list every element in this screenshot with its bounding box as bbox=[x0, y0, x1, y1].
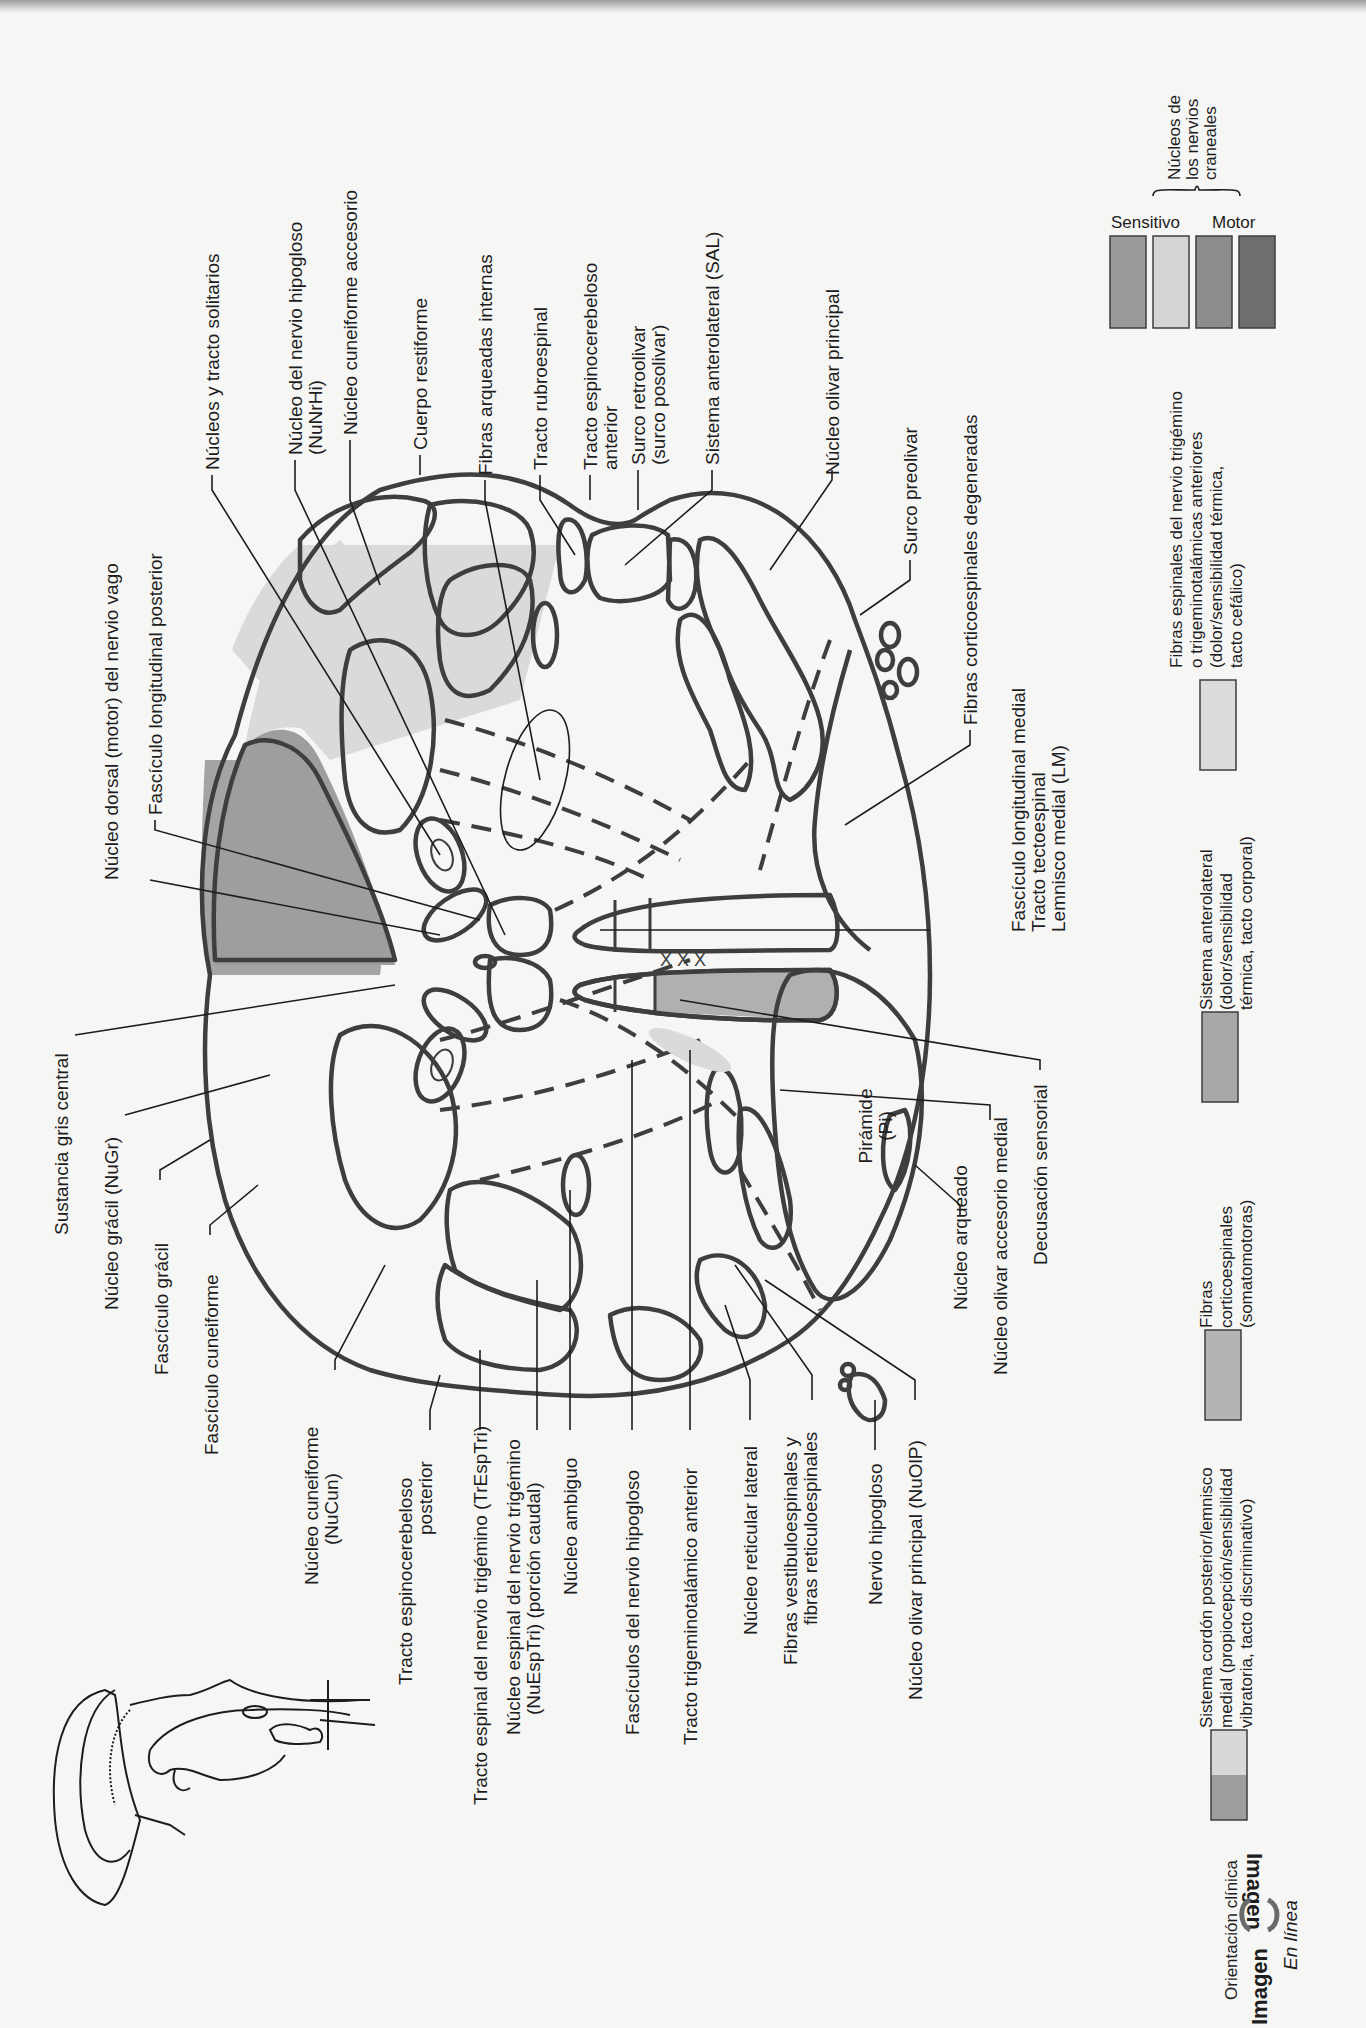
label-nucleo-ambiguo: Núcleo ambiguo bbox=[560, 1458, 581, 1595]
label-fibras-corticoespinales-degeneradas: Fibras corticoespinales degeneradas bbox=[960, 414, 981, 725]
legend-motor: Motor bbox=[1212, 213, 1256, 232]
label-fasciculo-gracil: Fascículo grácil bbox=[151, 1243, 172, 1375]
legend-swatch-anterolateral bbox=[1202, 1012, 1238, 1102]
inferior-olive-upper-inner bbox=[678, 615, 752, 790]
legend-trigemino-line3: (dolor/sensibilidad térmica, bbox=[1207, 466, 1226, 668]
spinal-trigeminal-nucleus-lower bbox=[447, 1182, 581, 1310]
legend-cordon-line1: Sistema cordón posterior/lemnisco bbox=[1197, 1467, 1216, 1728]
branding-imagen-2: Imagen bbox=[1242, 1853, 1267, 1930]
nucleus-ambiguus-lower bbox=[563, 1155, 589, 1215]
legend-swatch-corticoespinales bbox=[1205, 1330, 1241, 1420]
label-fibras-vestibuloespinales: Fibras vestibuloespinales y bbox=[780, 1436, 801, 1665]
decussation-marks: X X X bbox=[660, 950, 706, 970]
legend-corticoespinales-line3: (somatomotoras) bbox=[1237, 1200, 1256, 1328]
label-nervio-hipogloso: Nervio hipogloso bbox=[865, 1463, 886, 1605]
branding-orientacion: Orientación clínica bbox=[1222, 1860, 1241, 2000]
spinal-trigeminal-tract-lower bbox=[438, 1265, 577, 1370]
legend-tracts: Fibras espinales del nervio trigémino o … bbox=[1167, 391, 1256, 1820]
anterior-spinocerebellar bbox=[668, 539, 696, 608]
legend-anterolateral-line1: Sistema anterolateral bbox=[1197, 849, 1216, 1010]
label-sistema-anterolateral: Sistema anterolateral (SAL) bbox=[702, 232, 723, 465]
label-tracto-espinocerebeloso-anterior: Tracto espinocerebeloso bbox=[580, 263, 601, 470]
legend-cordon-line3: vibratoria, tacto discriminativo) bbox=[1237, 1498, 1256, 1728]
label-fasciculo-longitudinal-posterior: Fascículo longitudinal posterior bbox=[145, 552, 166, 815]
label-nucleo-nervio-hipogloso: Núcleo del nervio hipogloso bbox=[285, 222, 306, 455]
label-nucleo-gracil: Núcleo grácil (NuGr) bbox=[101, 1137, 122, 1310]
label-lemnisco-medial: Lemnisco medial (LM) bbox=[1048, 745, 1069, 932]
legend-swatch-motor-dark bbox=[1239, 236, 1275, 328]
hypoglossal-rootlet bbox=[840, 1380, 850, 1390]
legend-cranial-title-1: Núcleos de bbox=[1165, 95, 1184, 180]
legend-swatch-sensory-dark bbox=[1110, 236, 1146, 328]
label-surco-preolivar: Surco preolivar bbox=[900, 427, 921, 555]
pyramid-boundary-upper bbox=[814, 650, 870, 950]
legend-trigemino-line4: tacto cefálico) bbox=[1227, 563, 1246, 668]
labels-bottom: Tracto espinocerebeloso posterior Tracto… bbox=[395, 1426, 926, 1805]
legend-anterolateral-line3: térmica, tacto corporal) bbox=[1237, 836, 1256, 1010]
legend-swatch-sensory-light bbox=[1153, 236, 1189, 328]
legend-sensitivo: Sensitivo bbox=[1111, 213, 1180, 232]
label-tracto-rubroespinal: Tracto rubroespinal bbox=[530, 307, 551, 470]
labels-left: Sustancia gris central Núcleo grácil (Nu… bbox=[51, 1053, 342, 1585]
medial-lemniscus-lower-fill bbox=[655, 970, 837, 1020]
legend-swatch-cordon-light bbox=[1211, 1730, 1247, 1775]
branding-logo: Orientación clínica Imagen Imagen En lín… bbox=[1222, 1853, 1301, 2025]
label-nucleo-espinal-trigemino-2: (NuEspTri) (porción caudal) bbox=[523, 1482, 544, 1715]
inferior-olive-upper bbox=[697, 538, 823, 800]
medulla-cross-section: X X X Pirámide (Pi) bbox=[202, 474, 930, 1420]
legend-cranial-title-3: craneales bbox=[1201, 106, 1220, 180]
label-nucleo-olivar-accesorio-medial: Núcleo olivar accesorio medial bbox=[990, 1117, 1011, 1375]
legend-brace bbox=[1153, 186, 1240, 196]
label-nucleo-cuneiforme-abbr: (NuCun) bbox=[321, 1473, 342, 1545]
label-nucleo-arqueado: Núcleo arqueado bbox=[950, 1165, 971, 1310]
label-fibras-arqueadas-internas: Fibras arqueadas internas bbox=[475, 254, 496, 475]
arcuate-dash-7 bbox=[480, 1100, 720, 1180]
legend-cranial-nuclei: Núcleos de los nervios craneales Sensiti… bbox=[1110, 95, 1275, 328]
label-fasciculos-nervio-hipogloso: Fascículos del nervio hipogloso bbox=[622, 1470, 643, 1735]
label-nucleo-dorsal-vago: Núcleo dorsal (motor) del nervio vago bbox=[101, 563, 122, 880]
arcuate-dash-3 bbox=[440, 820, 650, 880]
hypoglossal-nucleus-upper bbox=[489, 898, 552, 955]
legend-corticoespinales-line2: corticoespinales bbox=[1217, 1206, 1236, 1328]
label-tracto-espinocerebeloso-anterior-2: anterior bbox=[600, 405, 621, 470]
label-nucleo-nervio-hipogloso-abbr: (NuNrHi) bbox=[305, 380, 326, 455]
label-fasciculo-cuneiforme: Fascículo cuneiforme bbox=[201, 1274, 222, 1455]
labels-right-mid: Fascículo longitudinal medial Tracto tec… bbox=[950, 688, 1069, 1375]
medulla-cross-section-figure: X X X Pirámide (Pi) bbox=[0, 0, 1366, 2028]
label-fibras-reticuloespinales: fibras reticuloespinales bbox=[800, 1432, 821, 1625]
pyramid-label: Pirámide bbox=[855, 1089, 876, 1164]
rootlet bbox=[881, 623, 899, 647]
legend-cordon-line2: medial (propiocepción/sensibilidad bbox=[1217, 1468, 1236, 1728]
legend-corticoespinales-line1: Fibras bbox=[1197, 1281, 1216, 1328]
legend-swatch-motor bbox=[1196, 236, 1232, 328]
label-tracto-trigeminotalamico-anterior: Tracto trigeminotalámico anterior bbox=[680, 1467, 701, 1745]
rootlet bbox=[899, 659, 917, 685]
branding-en-linea: En línea bbox=[1280, 1900, 1301, 1970]
legend-trigemino-line1: Fibras espinales del nervio trigémino bbox=[1167, 391, 1186, 668]
label-cuerpo-restiforme: Cuerpo restiforme bbox=[410, 298, 431, 450]
fasciculus-dark-fill bbox=[214, 730, 395, 965]
internal-arcuate-oval bbox=[487, 703, 582, 858]
label-surco-retroolivar: Surco retroolivar bbox=[628, 325, 649, 465]
hypoglossal-nerve bbox=[849, 1374, 885, 1420]
label-nucleo-espinal-trigemino: Núcleo espinal del nervio trigémino bbox=[503, 1439, 524, 1735]
legend-swatch-cordon-dark bbox=[1211, 1775, 1247, 1820]
branding-imagen-1: Imagen bbox=[1247, 1948, 1272, 2025]
rubrospinal-tract bbox=[558, 520, 586, 593]
hypoglossal-rootlet bbox=[842, 1364, 854, 1376]
label-tracto-espinal-trigemino: Tracto espinal del nervio trigémino (TrE… bbox=[470, 1426, 491, 1805]
label-nucleo-olivar-principal-top: Núcleo olivar principal bbox=[822, 289, 843, 475]
arcuate-dash-2 bbox=[440, 770, 680, 860]
legend-swatch-trigemino bbox=[1200, 680, 1236, 770]
label-nucleo-olivar-principal: Núcleo olivar principal (NuOlP) bbox=[905, 1440, 926, 1700]
label-sustancia-gris-central: Sustancia gris central bbox=[51, 1053, 72, 1235]
lateral-reticular-nucleus-region bbox=[610, 1308, 701, 1380]
label-tracto-espinocerebeloso-posterior: Tracto espinocerebeloso bbox=[395, 1478, 416, 1685]
legend-trigemino-line2: o trigeminotalámicas anteriores bbox=[1187, 432, 1206, 668]
label-nucleo-cuneiforme: Núcleo cuneiforme bbox=[301, 1427, 322, 1585]
legend-anterolateral-line2: (dolor/sensibilidad bbox=[1217, 873, 1236, 1010]
legend-cranial-title-2: los nervios bbox=[1183, 99, 1202, 180]
rootlet bbox=[877, 650, 893, 670]
label-surco-retroolivar-2: (surco posolivar) bbox=[648, 325, 669, 465]
label-tracto-espinocerebeloso-posterior-2: posterior bbox=[415, 1460, 436, 1535]
